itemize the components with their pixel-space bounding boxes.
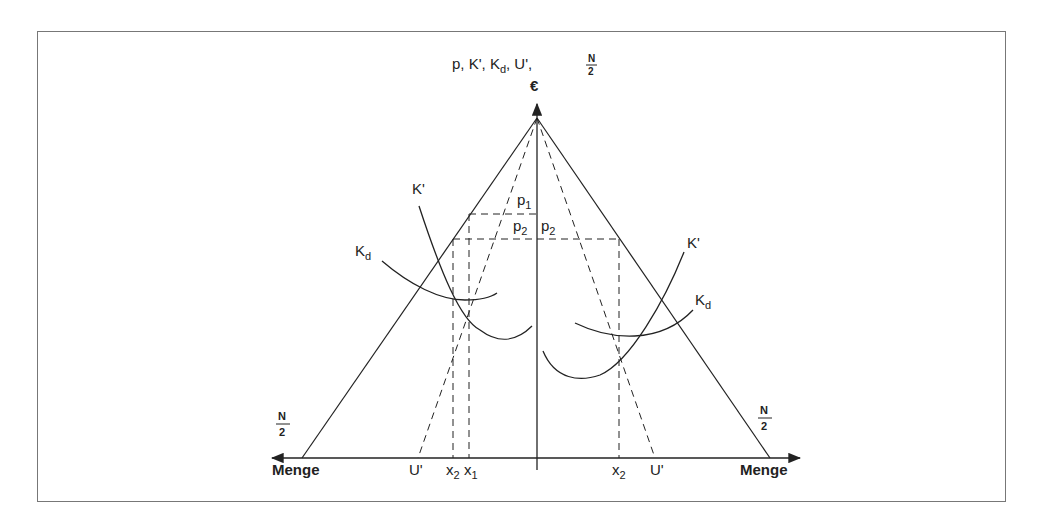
price-p2-left-label: p2 — [513, 217, 527, 237]
right-n2-den: 2 — [761, 420, 767, 432]
marginal-revenue-left — [418, 118, 537, 458]
euro-unit: € — [530, 77, 539, 94]
left-n2-den: 2 — [279, 426, 285, 438]
price-p2-right-label: p2 — [541, 217, 555, 237]
demand-line-right — [537, 118, 770, 458]
x-axis-left-label: Menge — [272, 461, 320, 478]
market-diagram: p, K', Kd, U', N 2 € p1 p2 p2 K' Kd K' K… — [0, 0, 1040, 519]
y-axis-label: p, K', Kd, U', — [452, 55, 532, 75]
left-n2-num: N — [278, 410, 286, 422]
tick-u-left: U' — [409, 461, 423, 478]
tick-x2-right: x2 — [612, 461, 626, 481]
price-p1-label: p1 — [517, 191, 531, 211]
tick-u-right: U' — [650, 461, 664, 478]
demand-line-left — [302, 118, 537, 458]
marginal-cost-curve-right — [543, 252, 684, 378]
x-axis-right-label: Menge — [740, 461, 788, 478]
tick-x2-left: x2 — [446, 461, 460, 481]
marginal-cost-label-left: K' — [412, 180, 425, 197]
y-axis-frac-num: N — [588, 53, 595, 64]
marginal-cost-label-right: K' — [687, 234, 700, 251]
avg-cost-curve-right — [575, 310, 693, 336]
avg-cost-label-left: Kd — [355, 242, 371, 262]
right-n2-num: N — [760, 404, 768, 416]
tick-x1-left: x1 — [464, 461, 478, 481]
avg-cost-label-right: Kd — [695, 291, 711, 311]
y-axis-frac-den: 2 — [588, 66, 594, 77]
marginal-revenue-right — [537, 118, 655, 458]
